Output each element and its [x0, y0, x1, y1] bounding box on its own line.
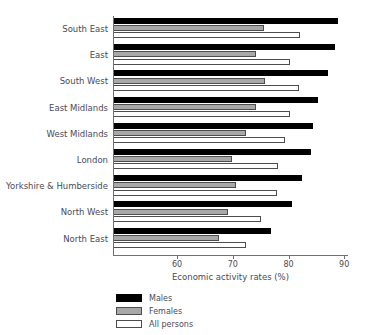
category-label-east: East	[0, 50, 108, 60]
bar-males-south-west	[113, 70, 328, 76]
legend-swatch-all-persons-icon	[116, 320, 142, 328]
bar-all-persons-west-midlands	[113, 137, 285, 143]
legend-swatch-males-icon	[116, 294, 142, 302]
bar-females-london	[113, 156, 232, 162]
x-tick-label-80: 80	[283, 260, 293, 269]
bar-females-east	[113, 51, 256, 57]
bar-females-north-east	[113, 235, 219, 241]
x-tick-label-60: 60	[172, 260, 182, 269]
legend-item-males: Males	[116, 292, 193, 304]
bar-males-london	[113, 149, 311, 155]
bar-males-east	[113, 44, 335, 50]
bar-females-south-east	[113, 25, 264, 31]
bar-all-persons-yorkshire-humberside	[113, 190, 277, 196]
category-label-south-east: South East	[0, 24, 108, 34]
category-label-north-east: North East	[0, 234, 108, 244]
x-tick-60	[177, 255, 178, 259]
bar-males-north-west	[113, 201, 292, 207]
legend-label-males: Males	[149, 294, 172, 303]
category-label-north-west: North West	[0, 207, 108, 217]
x-tick-70	[233, 255, 234, 259]
bar-females-yorkshire-humberside	[113, 182, 236, 188]
bar-females-east-midlands	[113, 104, 256, 110]
x-tick-80	[289, 255, 290, 259]
x-axis-title: Economic activity rates (%)	[113, 272, 348, 282]
bar-all-persons-south-east	[113, 32, 300, 38]
legend-item-all-persons: All persons	[116, 318, 193, 330]
bar-males-east-midlands	[113, 97, 318, 103]
category-label-london: London	[0, 155, 108, 165]
category-label-west-midlands: West Midlands	[0, 129, 108, 139]
chart-legend: Males Females All persons	[116, 292, 193, 331]
category-label-yorkshire-humberside: Yorkshire & Humberside	[0, 181, 108, 191]
legend-item-females: Females	[116, 305, 193, 317]
x-axis-line	[113, 255, 348, 256]
x-tick-label-70: 70	[228, 260, 238, 269]
x-tick-90	[344, 255, 345, 259]
category-label-south-west: South West	[0, 76, 108, 86]
bar-females-west-midlands	[113, 130, 246, 136]
legend-label-all-persons: All persons	[149, 320, 193, 329]
bar-all-persons-london	[113, 163, 278, 169]
y-axis-line	[113, 16, 114, 255]
bar-all-persons-north-east	[113, 242, 246, 248]
legend-label-females: Females	[149, 307, 182, 316]
bar-males-yorkshire-humberside	[113, 175, 302, 181]
legend-swatch-females-icon	[116, 307, 142, 315]
bar-females-north-west	[113, 209, 228, 215]
bar-males-west-midlands	[113, 123, 313, 129]
bar-all-persons-east-midlands	[113, 111, 290, 117]
bar-males-north-east	[113, 228, 271, 234]
x-tick-label-90: 90	[339, 260, 349, 269]
bar-all-persons-south-west	[113, 85, 299, 91]
bar-males-south-east	[113, 18, 338, 24]
bar-females-south-west	[113, 78, 265, 84]
bar-all-persons-north-west	[113, 216, 261, 222]
category-label-east-midlands: East Midlands	[0, 103, 108, 113]
economic-activity-bar-chart: South EastEastSouth WestEast MidlandsWes…	[0, 0, 380, 335]
bar-all-persons-east	[113, 59, 290, 65]
